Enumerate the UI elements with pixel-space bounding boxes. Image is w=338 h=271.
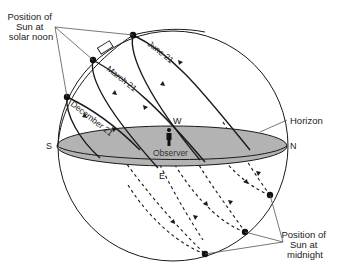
midnight-callout-label: Position of Sun at midnight — [281, 229, 328, 260]
midnight-positions — [202, 192, 273, 257]
north-label: N — [290, 141, 297, 151]
east-label: E — [159, 171, 165, 181]
west-label: W — [173, 116, 182, 126]
observer-label: Observer — [153, 148, 188, 158]
path-label-march: March 21 — [105, 64, 139, 94]
horizon-label: Horizon — [290, 115, 323, 126]
path-label-june: June 21 — [146, 39, 176, 66]
celestial-sphere-diagram: Position of Sun at solar noon Position o… — [0, 0, 338, 271]
noon-callout-label: Position of Sun at solar noon — [7, 11, 54, 42]
south-label: S — [46, 141, 52, 151]
